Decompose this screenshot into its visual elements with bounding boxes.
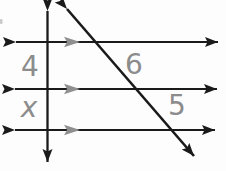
parallel-lines-transversal-figure: 4 x 6 5 [0,0,226,171]
segment-label-5: 5 [168,89,186,122]
figure-background [0,0,226,171]
segment-label-6: 6 [125,48,143,81]
segment-label-4: 4 [21,50,39,83]
scan-artifact-mark [0,19,3,24]
geometry-diagram: 4 x 6 5 [0,0,226,171]
segment-label-x: x [20,91,38,124]
